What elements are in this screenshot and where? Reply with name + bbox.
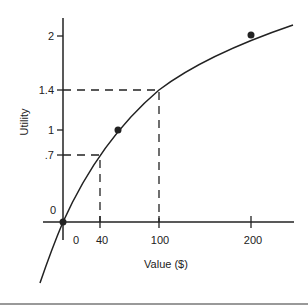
x-tick-200: 200: [244, 234, 262, 246]
x-axis-label: Value ($): [144, 258, 188, 270]
point-2: [248, 32, 255, 39]
point-1: [115, 127, 122, 134]
utility-chart: 2 1.4 1 .7 0 0 40 100 200 Value ($) Util…: [0, 0, 308, 307]
x-tick-40: 40: [96, 234, 108, 246]
y-tick-1: 1: [48, 124, 54, 136]
x-tick-100: 100: [151, 234, 169, 246]
y-tick-0: 0: [50, 204, 56, 216]
x-tick-0: 0: [73, 234, 79, 246]
y-tick-1.4: 1.4: [39, 84, 54, 96]
point-origin: [60, 219, 67, 226]
y-tick-0.7: .7: [45, 149, 54, 161]
reference-lines: [63, 90, 159, 222]
y-tick-2: 2: [48, 30, 54, 42]
y-axis-label: Utility: [18, 108, 30, 135]
